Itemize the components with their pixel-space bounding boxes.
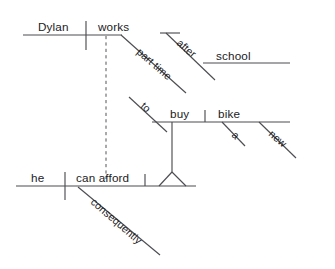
- sentence-diagram-canvas: Dylan works part time after school to bu…: [0, 0, 335, 269]
- label-consequently: consequently: [89, 195, 145, 246]
- tripod-left-leg: [159, 172, 172, 186]
- label-part-time: part time: [135, 45, 175, 82]
- label-can-afford: can afford: [76, 171, 129, 184]
- label-to: to: [139, 99, 154, 114]
- label-bike: bike: [218, 107, 240, 120]
- label-he: he: [31, 171, 44, 184]
- sentence-diagram-svg: Dylan works part time after school to bu…: [0, 0, 335, 269]
- label-dylan: Dylan: [38, 20, 69, 33]
- label-new: new: [267, 127, 290, 149]
- label-a: a: [230, 128, 242, 141]
- infinitive-phrase-group: [129, 97, 296, 158]
- label-works: works: [97, 20, 129, 33]
- infinitive-support-stand: [159, 122, 186, 186]
- label-school: school: [216, 49, 251, 62]
- label-after: after: [175, 36, 200, 60]
- tripod-right-leg: [172, 172, 186, 186]
- label-buy: buy: [170, 107, 189, 120]
